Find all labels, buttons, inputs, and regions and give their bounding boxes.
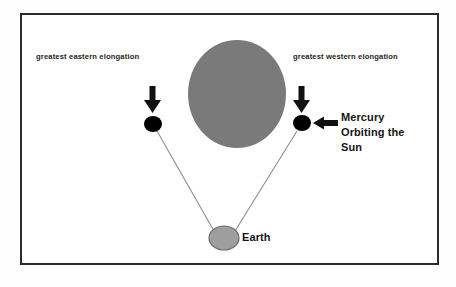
label-mercury-line-3: Sun — [341, 140, 405, 155]
arrow-left-mercury-icon — [313, 117, 338, 130]
label-mercury-orbiting-the-sun: Mercury Orbiting the Sun — [341, 110, 405, 155]
sight-line-eastern — [157, 131, 214, 231]
arrow-down-western-icon — [293, 86, 310, 113]
earth-ellipse — [209, 226, 239, 250]
label-mercury-line-2: Orbiting the — [341, 125, 405, 140]
mercury-western-dot — [293, 115, 311, 131]
diagram-canvas: greatest eastern elongation greatest wes… — [0, 0, 456, 287]
arrow-down-eastern-icon — [144, 86, 161, 113]
label-mercury-line-1: Mercury — [341, 110, 405, 125]
label-greatest-western-elongation: greatest western elongation — [293, 52, 398, 61]
label-earth: Earth — [242, 231, 271, 245]
sun-ellipse — [188, 40, 286, 148]
mercury-eastern-dot — [144, 116, 162, 132]
label-greatest-eastern-elongation: greatest eastern elongation — [36, 52, 139, 61]
